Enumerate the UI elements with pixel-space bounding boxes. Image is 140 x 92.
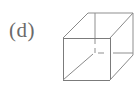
edge-diagonal-bottom-right [110, 55, 133, 80]
figure-panel: (d) [0, 0, 140, 92]
cube-wireframe-diagram [0, 0, 140, 92]
edge-diagonal-bottom-left [63, 54, 93, 80]
edge-diagonal-top-left [63, 13, 88, 38]
edge-diagonal-top-right [110, 13, 133, 38]
